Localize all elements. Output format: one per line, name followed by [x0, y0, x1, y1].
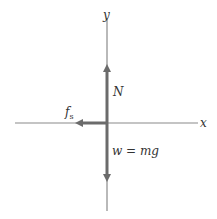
free-body-diagram: [0, 0, 217, 219]
normal-force-label: N: [113, 86, 124, 98]
friction-label-sub: s: [69, 112, 73, 121]
y-axis-label: y: [103, 9, 110, 21]
weight-label: w = mg: [112, 145, 159, 157]
friction-label: fs: [65, 106, 74, 121]
x-axis-label: x: [200, 117, 207, 129]
